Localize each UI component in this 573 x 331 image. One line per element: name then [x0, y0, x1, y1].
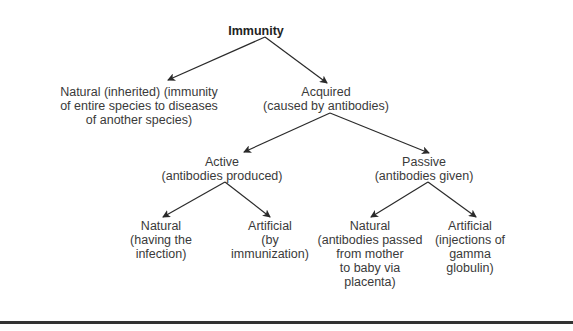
node-text: (injections of: [435, 233, 505, 247]
node-passive-artificial: Artificial (injections of gamma globulin…: [435, 219, 505, 275]
node-text: (by: [231, 233, 309, 247]
arrow-active-to-natural: [163, 182, 225, 217]
node-text: Immunity: [228, 24, 284, 38]
node-text: Passive: [375, 155, 474, 169]
node-text: (antibodies given): [375, 169, 474, 183]
arrow-immunity-to-natural: [168, 37, 265, 80]
node-text: Natural: [130, 219, 192, 233]
node-text: Active: [162, 155, 283, 169]
arrow-passive-to-artificial: [428, 182, 476, 217]
node-passive: Passive (antibodies given): [375, 155, 474, 183]
node-active-artificial: Artificial (by immunization): [231, 219, 309, 261]
node-text: (antibodies passed: [318, 233, 423, 247]
node-passive-natural: Natural (antibodies passed from mother t…: [318, 219, 423, 289]
node-text: immunization): [231, 247, 309, 261]
node-text: Artificial: [231, 219, 309, 233]
node-natural-inherited: Natural (inherited) (immunity of entire …: [60, 85, 218, 127]
node-text: of another species): [60, 113, 218, 127]
bottom-rule-divider: [0, 321, 573, 324]
arrows-layer: [0, 0, 573, 331]
node-text: (having the: [130, 233, 192, 247]
arrow-acquired-to-active: [244, 113, 330, 152]
arrow-acquired-to-passive: [330, 113, 429, 153]
arrow-immunity-to-acquired: [265, 37, 327, 83]
node-text: Natural: [318, 219, 423, 233]
node-text: (antibodies produced): [162, 169, 283, 183]
node-text: from mother: [318, 247, 423, 261]
node-text: Natural (inherited) (immunity: [60, 85, 218, 99]
node-text: infection): [130, 247, 192, 261]
node-immunity: Immunity: [228, 24, 284, 38]
arrow-passive-to-natural: [371, 182, 428, 217]
node-active: Active (antibodies produced): [162, 155, 283, 183]
node-text: gamma: [435, 247, 505, 261]
node-text: of entire species to diseases: [60, 99, 218, 113]
node-text: (caused by antibodies): [263, 99, 389, 113]
node-active-natural: Natural (having the infection): [130, 219, 192, 261]
node-text: Acquired: [263, 85, 389, 99]
node-acquired: Acquired (caused by antibodies): [263, 85, 389, 113]
node-text: Artificial: [435, 219, 505, 233]
node-text: to baby via: [318, 261, 423, 275]
arrow-active-to-artificial: [225, 182, 270, 217]
node-text: placenta): [318, 275, 423, 289]
node-text: globulin): [435, 261, 505, 275]
